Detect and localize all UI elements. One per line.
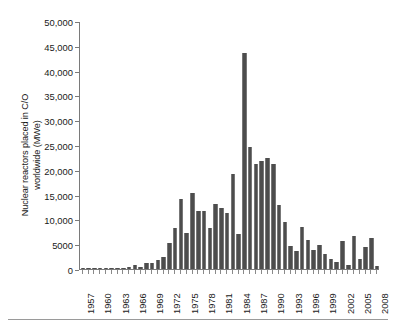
bar	[236, 234, 241, 269]
x-tick-mark	[255, 270, 256, 274]
bar	[121, 268, 126, 269]
x-tick-mark	[215, 270, 216, 274]
y-tick-label: 50,000	[44, 17, 73, 28]
bar	[213, 204, 218, 269]
y-axis-title: Nuclear reactors placed in C/O worldwide…	[20, 94, 43, 217]
x-tick-mark	[151, 270, 152, 274]
bar	[133, 265, 138, 269]
x-tick-label: 1969	[155, 293, 165, 314]
bar	[104, 268, 109, 269]
x-tick-mark	[324, 270, 325, 274]
x-tick-mark	[330, 270, 331, 274]
x-tick-mark	[105, 270, 106, 274]
bar	[86, 268, 91, 269]
bar	[81, 268, 86, 269]
bar	[265, 158, 270, 269]
bar	[127, 267, 132, 269]
bar	[196, 211, 201, 269]
bar	[109, 268, 114, 269]
x-tick-mark	[117, 270, 118, 274]
y-tick-mark	[75, 121, 79, 122]
y-tick-label: 25,000	[44, 141, 73, 152]
bar	[231, 174, 236, 269]
x-tick-mark	[318, 270, 319, 274]
bar	[340, 241, 345, 269]
bar	[138, 267, 143, 269]
bar	[156, 260, 161, 269]
x-tick-label: 1966	[138, 293, 148, 314]
bar	[346, 265, 351, 269]
y-tick-mark	[75, 220, 79, 221]
y-tick-mark	[75, 22, 79, 23]
x-tick-label: 1996	[311, 293, 321, 314]
x-tick-label: 2008	[380, 293, 390, 314]
x-tick-mark	[313, 270, 314, 274]
bar	[329, 259, 334, 269]
y-tick-label: 5000	[52, 240, 73, 251]
x-tick-mark	[226, 270, 227, 274]
bar	[358, 259, 363, 269]
y-tick-label: 45,000	[44, 41, 73, 52]
bar	[334, 262, 339, 269]
y-tick-mark	[75, 146, 79, 147]
bar	[352, 236, 357, 269]
x-tick-mark	[278, 270, 279, 274]
bar	[283, 222, 288, 269]
x-tick-mark	[99, 270, 100, 274]
bar	[144, 263, 149, 269]
x-tick-label: 2002	[346, 293, 356, 314]
y-tick-mark	[75, 72, 79, 73]
x-tick-mark	[284, 270, 285, 274]
y-tick-mark	[75, 270, 79, 271]
x-tick-label: 1975	[190, 293, 200, 314]
x-tick-mark	[376, 270, 377, 274]
y-tick-mark	[75, 47, 79, 48]
bar	[363, 247, 368, 269]
y-axis-line	[79, 22, 80, 270]
bar	[277, 205, 282, 269]
bar	[248, 147, 253, 270]
x-tick-label: 1957	[86, 293, 96, 314]
x-tick-mark	[301, 270, 302, 274]
x-tick-label: 2005	[363, 293, 373, 314]
x-tick-mark	[243, 270, 244, 274]
bar	[92, 268, 97, 269]
x-tick-mark	[272, 270, 273, 274]
y-tick-mark	[75, 96, 79, 97]
x-tick-mark	[163, 270, 164, 274]
x-tick-mark	[82, 270, 83, 274]
y-tick-label: 30,000	[44, 116, 73, 127]
x-tick-label: 1999	[328, 293, 338, 314]
x-tick-mark	[370, 270, 371, 274]
y-tick-label: 0	[68, 265, 73, 276]
x-tick-mark	[192, 270, 193, 274]
x-tick-mark	[134, 270, 135, 274]
bar	[219, 208, 224, 270]
x-tick-mark	[359, 270, 360, 274]
bar	[323, 254, 328, 269]
x-tick-mark	[295, 270, 296, 274]
x-tick-mark	[168, 270, 169, 274]
bar	[173, 228, 178, 269]
x-tick-mark	[93, 270, 94, 274]
x-tick-mark	[180, 270, 181, 274]
bar	[317, 245, 322, 269]
x-tick-label: 1963	[121, 293, 131, 314]
x-tick-mark	[203, 270, 204, 274]
x-tick-mark	[140, 270, 141, 274]
y-tick-label: 40,000	[44, 66, 73, 77]
bar	[167, 243, 172, 269]
y-tick-mark	[75, 171, 79, 172]
bar	[259, 161, 264, 269]
chart-figure: Nuclear reactors placed in C/O worldwide…	[0, 0, 396, 329]
x-tick-mark	[353, 270, 354, 274]
y-tick-label: 10,000	[44, 215, 73, 226]
bottom-divider-rule	[8, 319, 388, 320]
bar	[254, 164, 259, 269]
x-tick-mark	[174, 270, 175, 274]
bar	[271, 164, 276, 269]
x-tick-mark	[365, 270, 366, 274]
x-tick-mark	[111, 270, 112, 274]
x-tick-mark	[209, 270, 210, 274]
x-tick-mark	[347, 270, 348, 274]
